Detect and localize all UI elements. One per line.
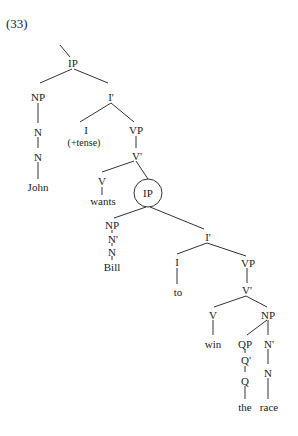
node-np-object: NP (261, 309, 275, 321)
node-ibar-low: I' (205, 231, 211, 243)
node-n-subject-1: N (34, 126, 42, 138)
node-ip-circled: IP (143, 187, 153, 199)
node-qbar: Q' (241, 354, 251, 366)
node-n-bill: N (108, 246, 116, 258)
node-n-object: N (264, 367, 272, 379)
node-i-top: I (84, 124, 88, 136)
node-vbar-top: V' (132, 150, 142, 162)
edge-ibarlow-vp (207, 243, 246, 256)
edge-ip-np (40, 69, 72, 83)
node-vbar-low: V' (242, 284, 252, 296)
edge-root-stub (60, 45, 70, 57)
edge-ip-npbill (114, 207, 146, 218)
node-vp-top: VP (129, 124, 143, 136)
word-race: race (260, 401, 278, 413)
word-john: John (28, 181, 49, 193)
feature-tense: (+tense) (68, 137, 101, 149)
edge-ibarlow-i (177, 243, 207, 254)
word-win: win (205, 338, 222, 350)
node-np-subject: NP (31, 91, 45, 103)
node-v-low: V (209, 309, 217, 321)
node-ibar-top: I' (108, 91, 114, 103)
node-ip-top: IP (68, 57, 78, 69)
tree-nodes: IP NP N N John I' I (+tense) VP V' V wan… (28, 57, 279, 413)
syntax-tree: (33) IP NP N (0, 0, 298, 436)
node-vp-low: VP (241, 257, 255, 269)
node-n-subject-2: N (34, 151, 42, 163)
example-number: (33) (6, 16, 28, 31)
node-i-low: I (175, 256, 179, 268)
tree-edges (38, 45, 268, 399)
edge-vbar-ip (136, 161, 148, 179)
word-the: the (238, 401, 252, 413)
edge-vbarlow-np (246, 296, 267, 307)
edge-vbar-v (102, 161, 134, 172)
node-v-top: V (98, 175, 106, 187)
edge-ip-ibar (74, 69, 108, 83)
edge-np-qp (247, 320, 267, 335)
node-qp: QP (238, 338, 252, 350)
node-q: Q (241, 375, 249, 387)
word-bill: Bill (104, 261, 121, 273)
word-wants: wants (90, 195, 116, 207)
node-nbar-object: N' (264, 338, 274, 350)
node-nbar-bill: N' (108, 233, 118, 245)
edge-ibar-vp (111, 103, 134, 122)
edge-ibar-i (80, 103, 111, 122)
edge-vbarlow-v (214, 296, 246, 307)
edge-ip-ibarlow (150, 207, 204, 229)
word-to: to (174, 286, 183, 298)
node-np-bill: NP (105, 219, 119, 231)
